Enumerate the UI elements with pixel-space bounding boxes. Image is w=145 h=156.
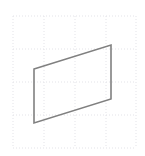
figure-svg: Parallelogram outline on a faint dotted … [0, 0, 145, 156]
canvas-background [0, 0, 145, 156]
figure-canvas: Parallelogram outline on a faint dotted … [0, 0, 145, 156]
